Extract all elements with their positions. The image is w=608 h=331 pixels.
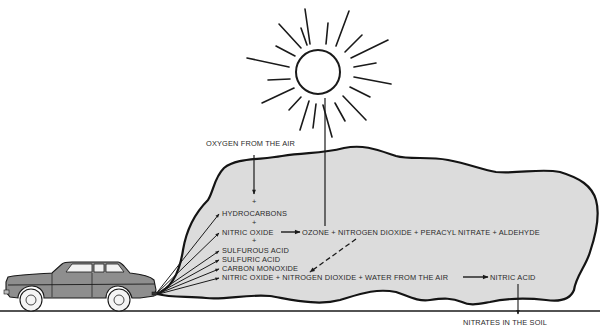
nitric-acid-label: NITRIC ACID <box>490 273 536 282</box>
plus-2: + <box>252 218 256 227</box>
nitrates-label: NITRATES IN THE SOIL <box>463 318 547 327</box>
oxygen-label: OXYGEN FROM THE AIR <box>206 139 295 148</box>
car-icon <box>4 262 157 311</box>
ozone-products-label: OZONE + NITROGEN DIOXIDE + PERACYL NITRA… <box>302 228 540 237</box>
sulfurous-acid-label: SULFUROUS ACID <box>222 246 289 255</box>
plus-1: + <box>252 197 256 206</box>
nitrogen-water-label: NITRIC OXIDE + NITROGEN DIOXIDE + WATER … <box>222 273 448 282</box>
sulfuric-acid-label: SULFURIC ACID <box>222 255 280 264</box>
carbon-monoxide-label: CARBON MONOXIDE <box>222 264 298 273</box>
smog-diagram: OXYGEN FROM THE AIR + HYDROCARBONS + NIT… <box>0 0 608 331</box>
plus-3: + <box>252 236 256 245</box>
nitric-oxide-label: NITRIC OXIDE <box>222 228 274 237</box>
sun-icon <box>247 9 391 137</box>
hydrocarbons-label: HYDROCARBONS <box>222 209 287 218</box>
